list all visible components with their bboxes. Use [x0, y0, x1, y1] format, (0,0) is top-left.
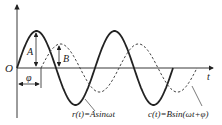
output-curve-label: c(t)=Bsin(ωt+φ): [148, 109, 208, 119]
output-leader: [192, 86, 202, 106]
sine-phase-diagram: O t A B φ r(t)=Asinωt c(t)=Bsin(ωt+φ): [0, 0, 222, 125]
amplitude-b-label: B: [63, 53, 69, 64]
origin-label: O: [5, 62, 13, 74]
input-curve-label: r(t)=Asinωt: [72, 109, 115, 119]
amplitude-a-label: A: [26, 46, 34, 57]
phase-label: φ: [26, 72, 32, 83]
x-axis-label: t: [207, 71, 210, 82]
